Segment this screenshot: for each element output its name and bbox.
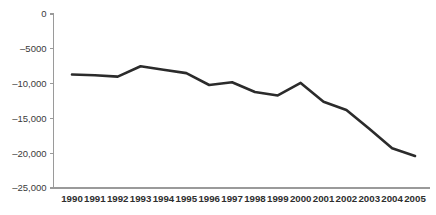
x-axis-tick-label: 1992 <box>107 193 129 204</box>
x-axis-tick-label: 2001 <box>313 193 335 204</box>
chart-canvas: 0–5000–10,000–15,000–20,000–25,000 19901… <box>0 0 436 215</box>
x-axis-tick-labels: 1990199119921993199419951996199719981999… <box>61 193 426 204</box>
y-axis-tick-label: 0 <box>41 8 46 19</box>
x-axis-tick-label: 1998 <box>244 193 266 204</box>
y-axis-tick-label: –15,000 <box>12 113 46 124</box>
line-chart: 0–5000–10,000–15,000–20,000–25,000 19901… <box>0 0 436 215</box>
y-axis-tick-label: –5000 <box>20 43 46 54</box>
x-axis-tick-label: 1997 <box>221 193 243 204</box>
x-axis-tick-label: 2000 <box>290 193 312 204</box>
x-axis-tick-label: 1995 <box>176 193 198 204</box>
y-axis-tick-label: –25,000 <box>12 182 46 193</box>
x-axis-tick-label: 1994 <box>153 193 175 204</box>
y-axis-tick-label: –10,000 <box>12 78 46 89</box>
x-axis-tick-label: 1996 <box>198 193 220 204</box>
x-axis-tick-label: 1999 <box>267 193 289 204</box>
x-axis-tick-label: 1993 <box>130 193 152 204</box>
x-axis-tick-label: 2002 <box>336 193 358 204</box>
y-axis-tick-labels: 0–5000–10,000–15,000–20,000–25,000 <box>12 8 46 193</box>
y-axis-tick-label: –20,000 <box>12 148 46 159</box>
x-axis-tick-label: 1990 <box>61 193 83 204</box>
x-axis-tick-label: 1991 <box>84 193 106 204</box>
x-axis-tick-label: 2004 <box>381 193 403 204</box>
x-axis-tick-label: 2003 <box>358 193 380 204</box>
data-series-line <box>72 66 415 156</box>
x-axis-tick-label: 2005 <box>404 193 426 204</box>
